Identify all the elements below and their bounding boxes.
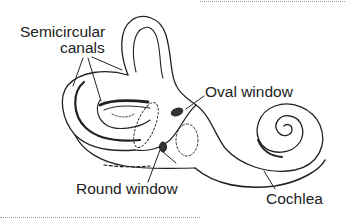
label-semicircular-canals-line1: Semicircular (20, 24, 105, 40)
label-round-window: Round window (76, 181, 178, 197)
superior-canal (122, 17, 196, 105)
label-oval-window: Oval window (205, 84, 293, 100)
label-cochlea: Cochlea (266, 191, 323, 207)
posterior-lateral-canals (62, 72, 150, 151)
cochlea-shape (195, 104, 325, 187)
oval-window-shape (170, 107, 184, 118)
label-semicircular-canals-line2: canals (60, 40, 105, 56)
round-window-shape (160, 142, 167, 152)
